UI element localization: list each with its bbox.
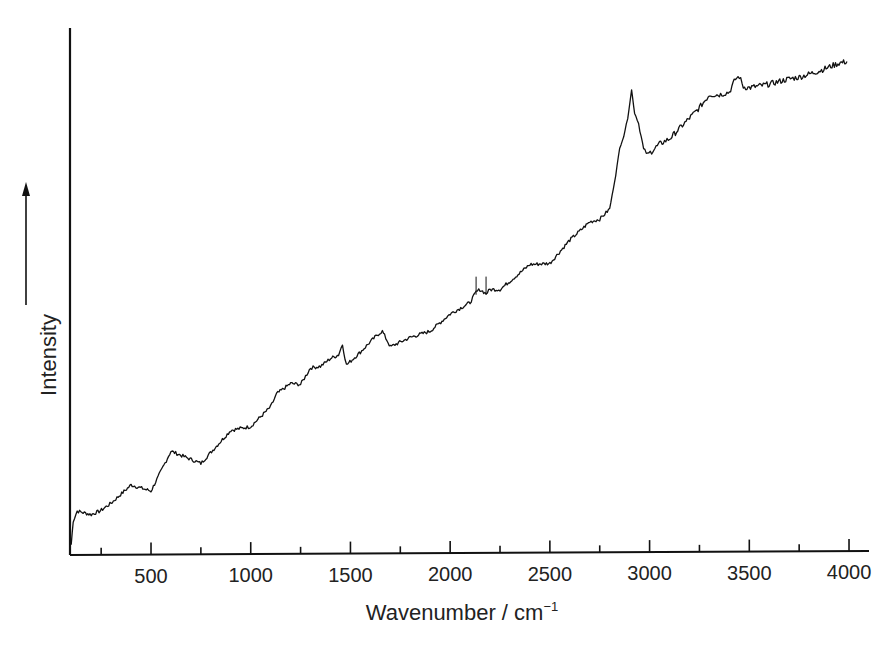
x-axis-line bbox=[70, 551, 869, 555]
plot-area bbox=[71, 60, 847, 545]
raman-spectrum-chart: 5001000150020002500300035004000 Wavenumb… bbox=[0, 0, 892, 649]
y-axis-title: Intensity bbox=[36, 314, 61, 396]
x-tick-label: 2500 bbox=[528, 563, 573, 585]
x-tick-label: 2000 bbox=[428, 563, 473, 585]
x-tick-label: 500 bbox=[134, 565, 167, 587]
x-tick-label: 3500 bbox=[727, 562, 772, 584]
x-tick-label: 1500 bbox=[328, 564, 373, 586]
x-tick-label: 4000 bbox=[827, 561, 872, 583]
spectrum-line bbox=[71, 60, 847, 545]
y-arrow-icon bbox=[22, 182, 30, 305]
x-tick-label: 1000 bbox=[228, 564, 273, 586]
x-axis-title: Wavenumber / cm−1 bbox=[366, 599, 559, 625]
x-axis-tick-labels: 5001000150020002500300035004000 bbox=[134, 561, 871, 586]
x-tick-label: 3000 bbox=[627, 562, 672, 584]
